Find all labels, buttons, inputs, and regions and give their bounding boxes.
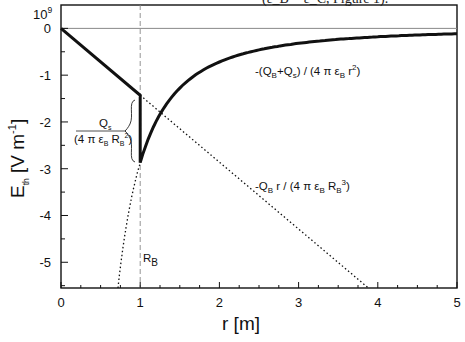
chart: 0123450-1-2-3-4-5 109 r [m] Eth [V m-1] … (0, 0, 465, 342)
R_B-label: RB (143, 252, 158, 268)
x-tick-label: 0 (57, 295, 64, 310)
x-tick-label: 3 (295, 295, 302, 310)
x-tick-label: 1 (137, 295, 144, 310)
x-tick-label: 5 (453, 295, 460, 310)
annotation-brace (125, 100, 135, 162)
outer-field-extension-dotted (118, 163, 140, 288)
y-tick-label: 0 (44, 21, 51, 36)
x-axis-title: r [m] (222, 313, 260, 334)
y-tick-label: -5 (39, 255, 51, 270)
y-tick-label: -3 (39, 162, 51, 177)
y-tick-label: -2 (39, 115, 51, 130)
x-tick-label: 2 (216, 295, 223, 310)
annotation-outer-field: -(QB+Qs) / (4 π εB r2) (255, 63, 361, 80)
y-tick-label: -4 (39, 208, 51, 223)
y-scale-label: 109 (33, 5, 52, 22)
annotation-jump-denominator: (4 π εB RB2) (74, 132, 132, 147)
annotation-jump-numerator: Qs (99, 117, 112, 131)
x-tick-label: 4 (374, 295, 381, 310)
y-tick-label: -1 (39, 68, 51, 83)
svg-text:Eth [V m-1]: Eth [V m-1] (6, 119, 31, 198)
plot-layer: 0123450-1-2-3-4-5 (39, 5, 460, 310)
annotation-inner-field: -QB r / (4 π εB RB3) (255, 178, 350, 195)
y-axis-title: Eth [V m-1] (6, 119, 31, 198)
